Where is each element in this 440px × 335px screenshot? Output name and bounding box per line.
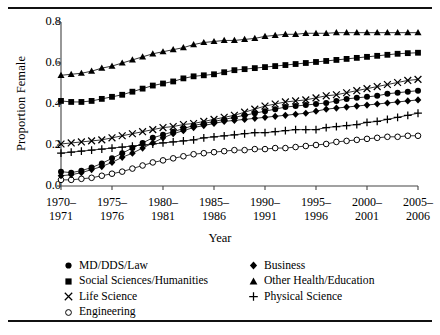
data-point-filled-square bbox=[211, 71, 217, 77]
data-point-filled-diamond bbox=[415, 96, 422, 103]
data-point-filled-diamond bbox=[252, 115, 259, 122]
filled-triangle-icon bbox=[247, 276, 260, 287]
data-point-filled-circle bbox=[262, 108, 268, 114]
data-point-plus bbox=[118, 143, 126, 151]
data-point-filled-diamond bbox=[129, 150, 136, 157]
data-point-open-circle bbox=[293, 144, 299, 150]
legend-item[interactable]: Engineering bbox=[62, 305, 208, 321]
legend-item[interactable]: Physical Science bbox=[247, 289, 374, 305]
x-tick-line2: 1976 bbox=[100, 209, 124, 223]
data-point-open-circle bbox=[79, 176, 85, 182]
data-point-filled-diamond bbox=[384, 99, 391, 106]
open-circle-icon bbox=[62, 307, 75, 318]
chart-canvas bbox=[0, 0, 440, 215]
data-point-filled-square bbox=[323, 58, 329, 64]
legend-item[interactable]: Other Health/Education bbox=[247, 274, 374, 290]
data-point-filled-square bbox=[201, 72, 207, 78]
data-point-plus bbox=[220, 132, 228, 140]
data-point-filled-diamond bbox=[282, 112, 289, 119]
data-point-cross-x bbox=[149, 126, 156, 133]
data-point-plus bbox=[67, 148, 75, 156]
data-point-open-circle bbox=[109, 171, 115, 177]
x-tick-line1: 1975– bbox=[97, 195, 127, 209]
x-tick-line2: 1986 bbox=[202, 209, 226, 223]
data-point-filled-square bbox=[140, 86, 146, 92]
data-point-open-circle bbox=[313, 142, 319, 148]
data-point-plus bbox=[241, 130, 249, 138]
data-point-plus bbox=[231, 131, 239, 139]
x-tick-line1: 1985– bbox=[199, 195, 229, 209]
data-point-filled-diamond bbox=[333, 105, 340, 112]
data-point-open-circle bbox=[395, 134, 401, 140]
data-point-filled-circle bbox=[384, 91, 390, 97]
legend-item-label: Other Health/Education bbox=[264, 275, 374, 287]
legend-item[interactable]: MD/DDS/Law bbox=[62, 258, 208, 274]
x-tick-line2: 1996 bbox=[304, 209, 328, 223]
data-point-open-circle bbox=[252, 146, 258, 152]
data-point-filled-circle bbox=[272, 106, 278, 112]
data-point-filled-square bbox=[130, 89, 136, 95]
data-point-filled-square bbox=[374, 53, 380, 59]
legend-item-label: Business bbox=[264, 260, 305, 272]
data-point-filled-circle bbox=[282, 104, 288, 110]
data-point-filled-circle bbox=[364, 94, 370, 100]
data-point-filled-square bbox=[109, 94, 115, 100]
data-point-filled-circle bbox=[333, 98, 339, 104]
data-point-filled-square bbox=[160, 81, 166, 87]
data-point-filled-circle bbox=[344, 96, 350, 102]
legend-item[interactable]: Business bbox=[247, 258, 374, 274]
data-point-filled-square bbox=[68, 99, 74, 105]
data-point-plus bbox=[271, 128, 279, 136]
data-point-open-circle bbox=[272, 145, 278, 151]
x-tick-label: 2005–2006 bbox=[388, 196, 440, 223]
data-point-plus bbox=[57, 149, 65, 157]
filled-diamond-icon bbox=[247, 260, 260, 271]
series-other-health-education bbox=[58, 29, 422, 78]
data-point-filled-square bbox=[232, 67, 238, 73]
data-point-open-circle bbox=[201, 150, 207, 156]
x-tick-line2: 1981 bbox=[151, 209, 175, 223]
data-point-filled-square bbox=[334, 57, 340, 63]
data-point-open-circle bbox=[323, 141, 329, 147]
legend-item[interactable]: Life Science bbox=[62, 289, 208, 305]
x-tick-line2: 1991 bbox=[253, 209, 277, 223]
x-tick-line1: 1995– bbox=[301, 195, 331, 209]
data-point-filled-diamond bbox=[394, 98, 401, 105]
data-point-filled-square bbox=[293, 61, 299, 67]
figure-container: Proportion Female 0.80.60.40.20.0 1970–1… bbox=[0, 0, 440, 335]
data-point-plus bbox=[333, 123, 341, 131]
x-tick-line1: 1980– bbox=[148, 195, 178, 209]
data-point-open-circle bbox=[303, 143, 309, 149]
data-point-open-circle bbox=[242, 147, 248, 153]
data-point-filled-circle bbox=[405, 89, 411, 95]
data-point-filled-triangle bbox=[302, 30, 309, 36]
data-point-open-circle bbox=[374, 135, 380, 141]
data-point-plus bbox=[210, 133, 218, 141]
data-point-filled-square bbox=[385, 52, 391, 58]
data-point-open-circle bbox=[99, 173, 105, 179]
data-point-open-circle bbox=[140, 163, 146, 169]
data-point-filled-triangle bbox=[221, 37, 228, 43]
data-point-filled-triangle bbox=[333, 29, 340, 35]
data-point-plus bbox=[159, 139, 167, 147]
data-point-open-circle bbox=[364, 136, 370, 142]
data-point-filled-triangle bbox=[313, 30, 320, 36]
data-point-cross-x bbox=[109, 134, 116, 141]
data-point-filled-circle bbox=[374, 93, 380, 99]
data-point-open-circle bbox=[221, 148, 227, 154]
data-point-filled-circle bbox=[303, 102, 309, 108]
legend-item-label: Physical Science bbox=[264, 291, 342, 303]
data-point-filled-diamond bbox=[313, 108, 320, 115]
data-point-filled-circle bbox=[313, 101, 319, 107]
filled-square-icon bbox=[62, 276, 75, 287]
data-point-open-circle bbox=[232, 147, 238, 153]
data-point-filled-circle bbox=[354, 95, 360, 101]
data-point-plus bbox=[302, 126, 310, 134]
data-point-filled-square bbox=[170, 79, 176, 85]
legend-item[interactable]: Social Sciences/Humanities bbox=[62, 274, 208, 290]
data-point-cross-x bbox=[364, 85, 371, 92]
data-point-open-circle bbox=[191, 151, 197, 157]
data-point-open-circle bbox=[89, 175, 95, 181]
data-point-filled-square bbox=[221, 69, 227, 75]
data-point-filled-diamond bbox=[374, 100, 381, 107]
